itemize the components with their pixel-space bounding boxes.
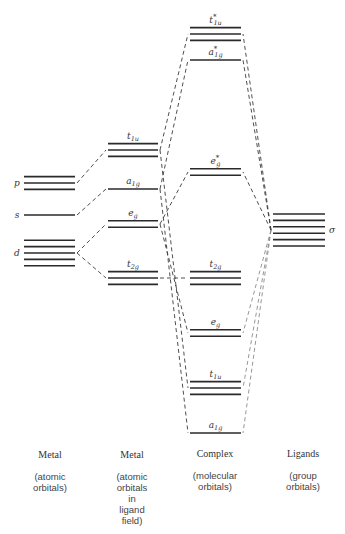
orbital-labels: psdt1ua1gegt2gt*1ua*1ge*gt2gegt1ua1gσ [14,13,336,432]
column-desc-ligands: (group orbitals) [263,470,343,492]
connector-t1u-t1u-star [160,34,188,150]
connector-a1g-a1g-star [160,60,188,189]
connector-d-eg [77,224,106,253]
metal-field-label-t1u: t1u [127,131,139,143]
connector-p-t1u [77,150,106,183]
connector-sigma-t1u-star [243,34,271,230]
connector-sigma-a1g-star [243,60,271,230]
complex-label-t1u: t1u [210,369,222,381]
column-heading-metal-atomic: Metal [10,449,90,460]
connector-t1u-t1u [160,150,188,388]
column-heading-metal-field: Metal [92,449,172,460]
complex-label-eg: eg [211,317,221,329]
metal-atomic-label-s: s [15,210,20,220]
metal-field-label-a1g: a1g [126,176,140,188]
connector-s-a1g [77,189,106,215]
connector-d-t2g [77,253,106,278]
column-desc-metal-atomic: (atomic orbitals) [10,471,90,493]
column-desc-complex: (molecular orbitals) [175,470,255,492]
connector-a1g-a1g [160,189,188,433]
connector-eg-eg-star [160,172,188,224]
complex-label-a1g-star: a*1g [208,45,222,59]
ligand-label-sigma: σ [329,225,336,235]
column-desc-metal-field: (atomic orbitals in ligand field) [92,471,172,526]
correlation-lines [77,34,271,433]
metal-atomic-label-p: p [14,178,20,188]
connector-sigma-a1g [243,230,271,433]
complex-label-t1u-star: t*1u [209,13,221,27]
complex-label-eg-star: e*g [211,154,221,168]
column-heading-ligands: Ligands [263,448,343,459]
metal-field-label-t2g: t2g [127,259,139,271]
metal-atomic-label-d: d [14,248,20,258]
complex-label-t2g: t2g [210,259,222,271]
connector-sigma-t1u [243,230,271,388]
metal-field-label-eg: eg [128,208,138,220]
connector-eg-eg [160,224,188,333]
complex-label-a1g: a1g [209,420,223,432]
column-heading-complex: Complex [175,448,255,459]
connector-sigma-eg [243,230,271,333]
